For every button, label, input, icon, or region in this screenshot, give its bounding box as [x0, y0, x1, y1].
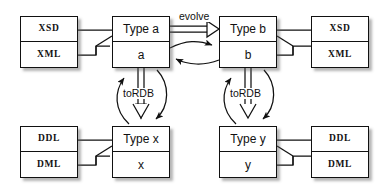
schema-left-to-type-a-connector	[78, 30, 112, 55]
a-to-b-curved-arrow	[170, 42, 212, 48]
relational-box-right[interactable]: DDL DML	[311, 126, 369, 178]
x-to-a-curved-arrow	[117, 78, 129, 124]
y-to-b-curved-arrow	[224, 78, 236, 124]
relational-box-right-dml-cell: DML	[312, 152, 368, 177]
to-rdb-label-left: toRDB	[122, 88, 155, 99]
type-x-box[interactable]: Type x x	[112, 126, 170, 178]
type-y-to-relational-right-connector	[277, 140, 311, 165]
type-x-instance-cell: x	[113, 152, 169, 177]
type-y-name-cell: Type y	[220, 127, 276, 152]
evolve-label: evolve	[178, 11, 210, 22]
a-to-x-curved-arrow	[156, 70, 167, 119]
schema-box-right[interactable]: XSD XML	[311, 16, 369, 68]
type-b-name-cell: Type b	[220, 17, 276, 42]
to-rdb-label-right: toRDB	[229, 88, 262, 99]
type-x-name-cell: Type x	[113, 127, 169, 152]
schema-box-left[interactable]: XSD XML	[20, 16, 78, 68]
schema-box-left-xsd-cell: XSD	[21, 17, 77, 42]
type-a-name-cell: Type a	[113, 17, 169, 42]
relational-box-left-dml-cell: DML	[21, 152, 77, 177]
relational-left-to-type-x-connector	[78, 140, 112, 165]
type-a-box[interactable]: Type a a	[112, 16, 170, 68]
schema-box-right-xml-cell: XML	[312, 42, 368, 67]
type-a-instance-cell: a	[113, 42, 169, 67]
diagram-canvas: XSD XML Type a a Type b b XSD XML DDL DM…	[0, 0, 389, 193]
evolve-arrow	[170, 21, 219, 37]
relational-box-left[interactable]: DDL DML	[20, 126, 78, 178]
type-y-box[interactable]: Type y y	[219, 126, 277, 178]
schema-box-left-xml-cell: XML	[21, 42, 77, 67]
type-y-instance-cell: y	[220, 152, 276, 177]
b-to-a-curved-arrow	[176, 59, 219, 64]
type-b-instance-cell: b	[220, 42, 276, 67]
relational-box-left-ddl-cell: DDL	[21, 127, 77, 152]
relational-box-right-ddl-cell: DDL	[312, 127, 368, 152]
type-b-box[interactable]: Type b b	[219, 16, 277, 68]
schema-box-right-xsd-cell: XSD	[312, 17, 368, 42]
b-to-y-curved-arrow	[263, 70, 274, 119]
type-b-to-schema-right-connector	[277, 30, 311, 55]
